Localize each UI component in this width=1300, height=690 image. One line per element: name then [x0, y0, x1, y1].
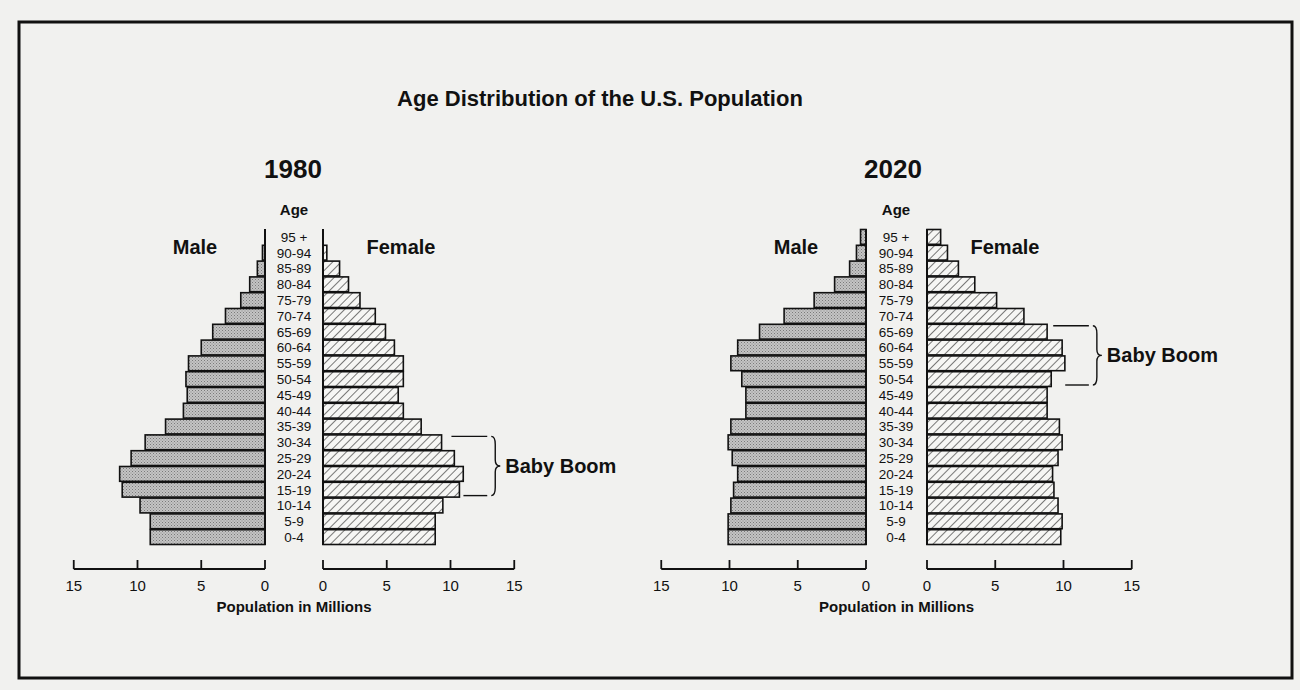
x-tick-label: 10 [129, 577, 146, 594]
age-group-label: 10-14 [879, 498, 914, 513]
female-bar-25-29 [323, 451, 454, 466]
female-bar-80-84 [927, 277, 975, 292]
male-bar-85-89 [257, 261, 265, 276]
age-group-label: 15-19 [277, 483, 312, 498]
female-bar-45-49 [323, 388, 398, 403]
female-bar-75-79 [323, 293, 360, 308]
age-group-label: 0-4 [284, 530, 304, 545]
female-bar-55-59 [323, 356, 403, 371]
female-bar-15-19 [927, 482, 1054, 497]
male-bar-45-49 [187, 388, 265, 403]
age-group-label: 35-39 [879, 419, 914, 434]
female-bar-55-59 [927, 356, 1065, 371]
age-group-label: 15-19 [879, 483, 914, 498]
x-tick-label: 0 [319, 577, 327, 594]
female-bar-60-64 [927, 340, 1062, 355]
age-group-label: 25-29 [277, 451, 312, 466]
x-tick-label: 5 [991, 577, 999, 594]
age-group-label: 10-14 [277, 498, 312, 513]
male-bar-10-14 [140, 498, 265, 513]
age-group-label: 5-9 [886, 514, 906, 529]
male-bar-70-74 [784, 309, 866, 324]
female-bar-15-19 [323, 482, 459, 497]
female-bar-50-54 [323, 372, 403, 387]
female-bar-30-34 [927, 435, 1062, 450]
male-bar-85-89 [850, 261, 866, 276]
x-axis-title: Population in Millions [217, 598, 372, 615]
female-label: Female [971, 236, 1040, 258]
female-bar-45-49 [927, 388, 1047, 403]
age-group-label: 85-89 [879, 261, 914, 276]
age-group-label: 70-74 [277, 309, 312, 324]
male-bar-15-19 [734, 482, 866, 497]
age-group-label: 20-24 [879, 467, 914, 482]
x-tick-label: 10 [1055, 577, 1072, 594]
figure-title: Age Distribution of the U.S. Population [397, 86, 803, 111]
age-group-label: 0-4 [886, 530, 906, 545]
female-bar-65-69 [323, 324, 385, 339]
age-group-label: 45-49 [879, 388, 914, 403]
age-group-label: 80-84 [879, 277, 914, 292]
panel-year-title: 2020 [864, 154, 922, 184]
male-bar-15-19 [122, 482, 265, 497]
x-tick-label: 10 [721, 577, 738, 594]
x-tick-label: 15 [653, 577, 670, 594]
x-tick-label: 0 [862, 577, 870, 594]
age-group-label: 75-79 [277, 293, 312, 308]
male-bar-75-79 [814, 293, 866, 308]
male-bar-60-64 [738, 340, 866, 355]
male-bar-20-24 [738, 467, 866, 482]
age-axis-title: Age [280, 201, 308, 218]
male-bar-5-9 [728, 514, 866, 529]
age-group-label: 40-44 [879, 404, 914, 419]
female-bar-85-89 [323, 261, 340, 276]
female-label: Female [367, 236, 436, 258]
female-bar-85-89 [927, 261, 958, 276]
male-bar-60-64 [201, 340, 265, 355]
age-group-label: 5-9 [284, 514, 304, 529]
x-tick-label: 15 [506, 577, 523, 594]
baby-boom-bracket: Baby Boom [1053, 326, 1218, 385]
female-bar-65-69 [927, 324, 1047, 339]
male-bar-65-69 [213, 324, 265, 339]
baby-boom-label: Baby Boom [1107, 344, 1218, 366]
male-bar-80-84 [250, 277, 265, 292]
age-group-label: 90-94 [277, 246, 312, 261]
x-tick-label: 0 [923, 577, 931, 594]
male-bar-5-9 [150, 514, 265, 529]
male-label: Male [774, 236, 818, 258]
curly-brace-icon [1093, 326, 1102, 385]
male-bar-50-54 [186, 372, 265, 387]
female-bar-40-44 [323, 403, 403, 418]
male-bar-40-44 [183, 403, 265, 418]
baby-boom-bracket: Baby Boom [451, 436, 616, 495]
male-bar-25-29 [732, 451, 866, 466]
age-group-label: 40-44 [277, 404, 312, 419]
age-group-label: 90-94 [879, 246, 914, 261]
male-bar-45-49 [746, 388, 866, 403]
age-axis-title: Age [882, 201, 910, 218]
age-group-label: 80-84 [277, 277, 312, 292]
female-bar-20-24 [323, 467, 463, 482]
female-bar-35-39 [323, 419, 421, 434]
male-bar-50-54 [742, 372, 866, 387]
male-bar-35-39 [166, 419, 265, 434]
x-tick-label: 15 [1123, 577, 1140, 594]
male-bar-75-79 [241, 293, 265, 308]
age-group-label: 35-39 [277, 419, 312, 434]
x-tick-label: 5 [383, 577, 391, 594]
age-group-label: 65-69 [879, 325, 914, 340]
age-group-label: 55-59 [277, 356, 312, 371]
female-bar-30-34 [323, 435, 442, 450]
age-group-label: 30-34 [277, 435, 312, 450]
male-bar-25-29 [131, 451, 265, 466]
female-bar-10-14 [927, 498, 1058, 513]
figure-page: Age Distribution of the U.S. Population … [0, 0, 1300, 690]
male-label: Male [173, 236, 217, 258]
age-group-label: 60-64 [277, 340, 312, 355]
panel-year-title: 1980 [264, 154, 322, 184]
age-group-label: 85-89 [277, 261, 312, 276]
female-bar-90-94 [927, 245, 947, 260]
x-tick-label: 5 [197, 577, 205, 594]
age-group-label: 55-59 [879, 356, 914, 371]
